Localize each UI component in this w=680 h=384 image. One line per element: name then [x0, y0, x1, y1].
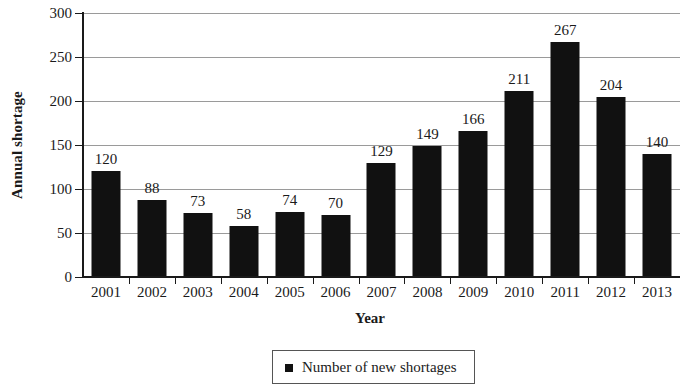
- y-axis-title: Annual shortage: [6, 13, 28, 277]
- y-axis-tick: [75, 101, 83, 102]
- bar-value-label: 140: [646, 135, 669, 150]
- bar-group: 166: [450, 13, 496, 277]
- y-axis-tick-label: 150: [36, 138, 72, 153]
- x-axis-tick: [450, 277, 451, 284]
- x-axis-title-text: Year: [355, 310, 385, 326]
- x-axis-tick: [588, 277, 589, 284]
- y-axis-tick: [75, 145, 83, 146]
- bar-group: 267: [542, 13, 588, 277]
- x-axis-tick-label: 2009: [458, 283, 488, 301]
- y-axis-tick-label: 100: [36, 182, 72, 197]
- y-axis-tick: [75, 189, 83, 190]
- bar-value-label: 204: [600, 78, 623, 93]
- bar-group: 129: [359, 13, 405, 277]
- y-axis-tick: [75, 57, 83, 58]
- bar-group: 149: [404, 13, 450, 277]
- legend: Number of new shortages: [272, 350, 475, 384]
- y-axis-tick: [75, 13, 83, 14]
- bar-group: 70: [313, 13, 359, 277]
- bar-value-label: 74: [282, 193, 297, 208]
- y-axis-tick: [75, 233, 83, 234]
- y-axis-tick-label: 50: [36, 226, 72, 241]
- y-axis-tick: [75, 277, 83, 278]
- x-axis-tick-label: 2012: [596, 283, 626, 301]
- bar-group: 73: [175, 13, 221, 277]
- bar-value-label: 211: [508, 72, 530, 87]
- x-axis-tick-label: 2005: [275, 283, 305, 301]
- bar[interactable]: [321, 215, 350, 277]
- bar[interactable]: [597, 97, 626, 277]
- x-axis-tick-label: 2013: [642, 283, 672, 301]
- x-axis-tick: [129, 277, 130, 284]
- plot-area: 1208873587470129149166211267204140: [83, 13, 680, 277]
- bar[interactable]: [551, 42, 580, 277]
- bar[interactable]: [367, 163, 396, 277]
- bar-value-label: 267: [554, 23, 577, 38]
- bar[interactable]: [413, 146, 442, 277]
- bar[interactable]: [505, 91, 534, 277]
- bar[interactable]: [275, 212, 304, 277]
- x-axis-tick: [404, 277, 405, 284]
- bar-value-label: 120: [95, 152, 118, 167]
- y-axis-tick-label: 200: [36, 94, 72, 109]
- legend-entry-label: Number of new shortages: [302, 359, 457, 376]
- bar-value-label: 73: [190, 194, 205, 209]
- x-axis-tick-label: 2003: [183, 283, 213, 301]
- bar-value-label: 58: [236, 207, 251, 222]
- x-axis-tick: [267, 277, 268, 284]
- y-axis-tick-label: 0: [36, 270, 72, 285]
- bar[interactable]: [459, 131, 488, 277]
- bar-group: 88: [129, 13, 175, 277]
- x-axis-tick-label: 2006: [321, 283, 351, 301]
- bar-value-label: 166: [462, 112, 485, 127]
- x-axis-tick: [542, 277, 543, 284]
- bar-group: 211: [496, 13, 542, 277]
- x-axis-tick: [313, 277, 314, 284]
- bar-group: 204: [588, 13, 634, 277]
- x-axis-title: Year: [0, 309, 680, 327]
- x-axis-line: [82, 276, 680, 278]
- x-axis-tick-label: 2001: [91, 283, 121, 301]
- x-axis-tick-label: 2011: [550, 283, 579, 301]
- bar-value-label: 70: [328, 196, 343, 211]
- x-axis-tick-label: 2002: [137, 283, 167, 301]
- bar[interactable]: [91, 171, 120, 277]
- bar-value-label: 88: [144, 181, 159, 196]
- bar[interactable]: [643, 154, 672, 277]
- bar-group: 58: [221, 13, 267, 277]
- x-axis-tick: [175, 277, 176, 284]
- bar-group: 120: [83, 13, 129, 277]
- bar[interactable]: [229, 226, 258, 277]
- bar[interactable]: [183, 213, 212, 277]
- bar[interactable]: [137, 200, 166, 277]
- y-axis-tick-label: 300: [36, 6, 72, 21]
- x-axis-tick: [496, 277, 497, 284]
- x-axis-tick-label: 2008: [412, 283, 442, 301]
- bar-value-label: 149: [416, 127, 439, 142]
- x-axis-tick: [359, 277, 360, 284]
- legend-marker-square-icon: [285, 364, 293, 372]
- x-axis-tick: [634, 277, 635, 284]
- bar-group: 140: [634, 13, 680, 277]
- x-axis-tick-label: 2010: [504, 283, 534, 301]
- x-axis-tick-label: 2004: [229, 283, 259, 301]
- bar-group: 74: [267, 13, 313, 277]
- bar-value-label: 129: [370, 144, 393, 159]
- y-axis-tick-label: 250: [36, 50, 72, 65]
- x-axis-tick-label: 2007: [367, 283, 397, 301]
- x-axis-tick: [221, 277, 222, 284]
